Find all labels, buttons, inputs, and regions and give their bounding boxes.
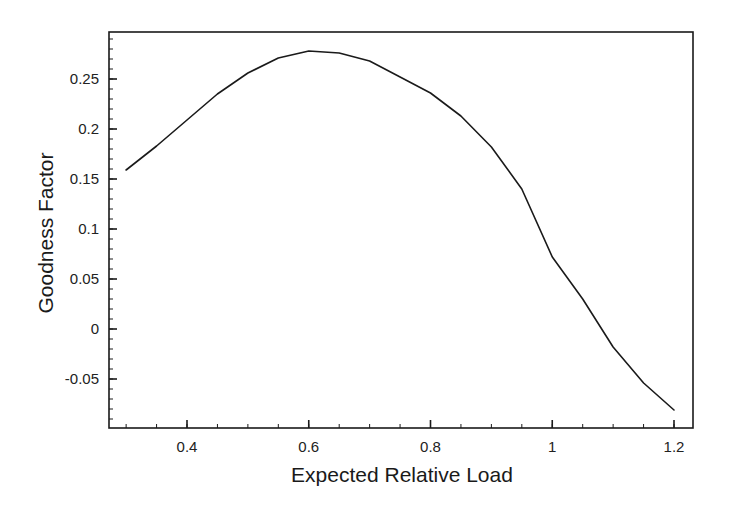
y-tick-label: 0.15 — [70, 170, 99, 187]
line-chart: 0.40.60.811.2 -0.0500.050.10.150.20.25 E… — [0, 0, 731, 514]
y-tick-label: 0.25 — [70, 70, 99, 87]
x-tick-label: 0.8 — [420, 438, 441, 455]
y-axis-title: Goodness Factor — [34, 152, 57, 313]
x-tick-label: 1 — [548, 438, 556, 455]
y-tick-label: 0 — [91, 320, 99, 337]
y-tick-label: 0.2 — [78, 120, 99, 137]
x-tick-label: 1.2 — [664, 438, 685, 455]
x-tick-label: 0.4 — [177, 438, 198, 455]
y-tick-label: 0.1 — [78, 220, 99, 237]
y-tick-label: -0.05 — [65, 370, 99, 387]
y-tick-label: 0.05 — [70, 270, 99, 287]
x-tick-label: 0.6 — [298, 438, 319, 455]
x-axis-title: Expected Relative Load — [291, 463, 513, 486]
